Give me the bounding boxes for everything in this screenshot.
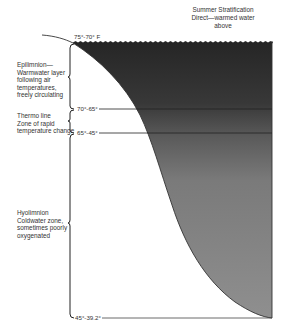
diagram-title: Summer Stratification Direct—warmed wate… bbox=[168, 6, 278, 30]
temp-thermocline-top: 70°-65° bbox=[77, 105, 99, 112]
water-surface-waves bbox=[73, 42, 273, 44]
hypolimnion-line: sometimes poorly bbox=[17, 224, 67, 232]
epilimnion-line: freely circulating bbox=[17, 91, 65, 99]
title-line-2: Direct—warmed water bbox=[168, 14, 278, 22]
hypolimnion-line: Coldwater zone, bbox=[17, 217, 67, 225]
temp-bottom: 45°-39.2° bbox=[75, 314, 102, 321]
stratification-graphic bbox=[0, 0, 285, 333]
thermocline-line: Thermo line bbox=[17, 112, 74, 120]
temp-thermocline-bottom: 65°-45° bbox=[77, 129, 99, 136]
lake-stratification-diagram: Summer Stratification Direct—warmed wate… bbox=[0, 0, 285, 333]
thermocline-line: Zone of rapid bbox=[17, 120, 74, 128]
thermocline-line: temperature change bbox=[17, 127, 74, 135]
epilimnion-bracket bbox=[68, 44, 74, 109]
hypolimnion-bracket bbox=[68, 134, 74, 318]
hypolimnion-line: oxygenated bbox=[17, 232, 67, 240]
title-line-1: Summer Stratification bbox=[168, 6, 278, 14]
temp-surface: 75°-70° F bbox=[74, 33, 101, 40]
title-line-3: above bbox=[168, 22, 278, 30]
thermocline-label: Thermo line Zone of rapid temperature ch… bbox=[17, 112, 74, 135]
epilimnion-line: Epilimnion— bbox=[17, 61, 65, 69]
epilimnion-line: temperatures, bbox=[17, 84, 65, 92]
epilimnion-label: Epilimnion— Warmwater layer following ai… bbox=[17, 61, 65, 99]
epilimnion-line: following air bbox=[17, 76, 65, 84]
hypolimnion-label: Hyolimnion Coldwater zone, sometimes poo… bbox=[17, 209, 67, 239]
hypolimnion-line: Hyolimnion bbox=[17, 209, 67, 217]
water-body bbox=[73, 43, 272, 318]
epilimnion-line: Warmwater layer bbox=[17, 69, 65, 77]
